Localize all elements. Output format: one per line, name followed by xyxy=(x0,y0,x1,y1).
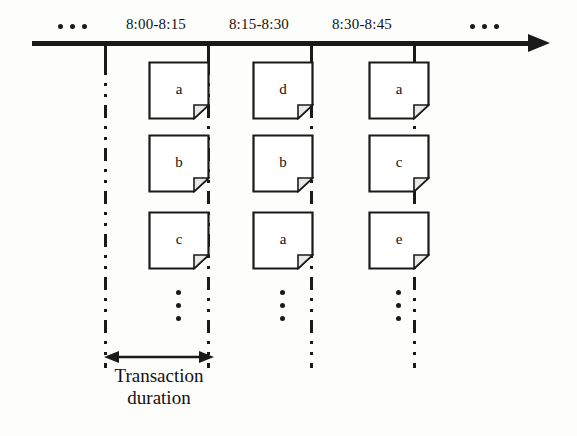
document-label: c xyxy=(148,211,210,270)
document-label: c xyxy=(368,134,430,193)
caption-line-1: Transaction xyxy=(78,365,240,387)
document-label: d xyxy=(252,61,314,120)
axis-leading-ellipsis-icon xyxy=(58,24,87,29)
document-label: a xyxy=(368,61,430,120)
document-icon[interactable]: a xyxy=(368,61,430,120)
axis-tick-1 xyxy=(104,44,107,64)
column-more-ellipsis-icon xyxy=(280,290,285,321)
document-icon[interactable]: c xyxy=(368,134,430,193)
document-icon[interactable]: b xyxy=(148,134,210,193)
period-label-2: 8:15-8:30 xyxy=(208,16,310,33)
document-icon[interactable]: e xyxy=(368,211,430,270)
document-icon[interactable]: a xyxy=(148,61,210,120)
document-label: a xyxy=(148,61,210,120)
diagram-canvas: 8:00-8:15 8:15-8:30 8:30-8:45 a b c xyxy=(0,0,577,436)
period-label-1: 8:00-8:15 xyxy=(105,16,207,33)
period-label-3: 8:30-8:45 xyxy=(311,16,413,33)
period-separator-1 xyxy=(104,62,107,368)
caption-line-2: duration xyxy=(78,387,240,409)
document-icon[interactable]: b xyxy=(252,134,314,193)
document-icon[interactable]: a xyxy=(252,211,314,270)
column-more-ellipsis-icon xyxy=(176,290,181,321)
document-label: a xyxy=(252,211,314,270)
column-more-ellipsis-icon xyxy=(396,290,401,321)
document-label: b xyxy=(148,134,210,193)
timeline-axis-line xyxy=(32,41,532,46)
timeline-arrowhead xyxy=(528,34,550,52)
transaction-duration-caption: Transaction duration xyxy=(78,365,240,410)
document-icon[interactable]: c xyxy=(148,211,210,270)
document-label: e xyxy=(368,211,430,270)
document-icon[interactable]: d xyxy=(252,61,314,120)
axis-trailing-ellipsis-icon xyxy=(470,24,499,29)
document-label: b xyxy=(252,134,314,193)
